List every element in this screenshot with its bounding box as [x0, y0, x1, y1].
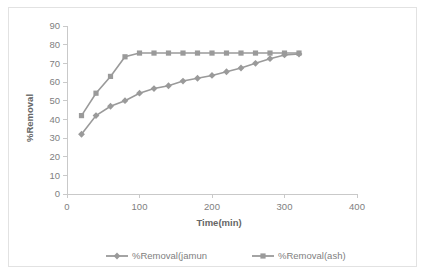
data-point-marker — [122, 54, 127, 59]
data-point-marker — [79, 113, 84, 118]
x-tick-label: 100 — [132, 201, 148, 212]
chart-frame: 0102030405060708090 0100200300400 Time(m… — [8, 7, 417, 267]
legend-marker — [114, 253, 121, 260]
data-point-marker — [180, 78, 187, 85]
series-ash — [79, 50, 302, 118]
line-chart: 0102030405060708090 0100200300400 Time(m… — [9, 8, 418, 268]
chart-legend: %Removal(jamun%Removal(ash) — [106, 250, 346, 261]
y-tick-label: 10 — [49, 170, 60, 181]
x-tick-label: 400 — [349, 201, 365, 212]
data-point-marker — [282, 50, 287, 55]
data-point-marker — [252, 60, 259, 67]
series-jamun — [78, 51, 302, 138]
y-tick-label: 0 — [55, 188, 60, 199]
series-line — [82, 53, 300, 116]
y-tick-label: 80 — [49, 39, 60, 50]
data-point-marker — [209, 50, 214, 55]
data-point-marker — [165, 82, 172, 89]
data-point-marker — [122, 97, 129, 104]
data-point-marker — [194, 75, 201, 82]
series-layer — [78, 50, 302, 137]
y-axis: 0102030405060708090 — [49, 20, 67, 199]
y-tick-label: 50 — [49, 95, 60, 106]
y-tick-label: 70 — [49, 58, 60, 69]
data-point-marker — [238, 65, 245, 72]
x-tick-label: 0 — [64, 201, 69, 212]
data-point-marker — [93, 91, 98, 96]
data-point-marker — [223, 68, 230, 75]
legend-item-ash: %Removal(ash) — [252, 250, 346, 261]
legend-label: %Removal(jamun — [132, 250, 207, 261]
data-point-marker — [267, 50, 272, 55]
data-point-marker — [151, 50, 156, 55]
x-tick-label: 200 — [204, 201, 220, 212]
data-point-marker — [253, 50, 258, 55]
series-line — [82, 54, 300, 134]
chart-plot-area: 0102030405060708090 0100200300400 Time(m… — [9, 8, 418, 268]
data-point-marker — [224, 50, 229, 55]
data-point-marker — [137, 50, 142, 55]
data-point-marker — [238, 50, 243, 55]
y-tick-label: 40 — [49, 114, 60, 125]
x-tick-label: 300 — [277, 201, 293, 212]
x-axis-title: Time(min) — [196, 217, 241, 228]
y-tick-label: 90 — [49, 20, 60, 31]
legend-label: %Removal(ash) — [278, 250, 346, 261]
data-point-marker — [108, 74, 113, 79]
data-point-marker — [195, 50, 200, 55]
y-axis-title: %Removal — [24, 94, 35, 142]
data-point-marker — [166, 50, 171, 55]
data-point-marker — [151, 85, 158, 92]
y-tick-label: 20 — [49, 151, 60, 162]
data-point-marker — [136, 90, 143, 97]
x-axis: 0100200300400 — [64, 194, 365, 212]
y-tick-label: 30 — [49, 132, 60, 143]
data-point-marker — [267, 55, 274, 62]
data-point-marker — [180, 50, 185, 55]
legend-item-jamun: %Removal(jamun — [106, 250, 207, 261]
data-point-marker — [209, 72, 216, 79]
legend-marker — [260, 253, 265, 258]
y-tick-label: 60 — [49, 76, 60, 87]
data-point-marker — [296, 50, 301, 55]
